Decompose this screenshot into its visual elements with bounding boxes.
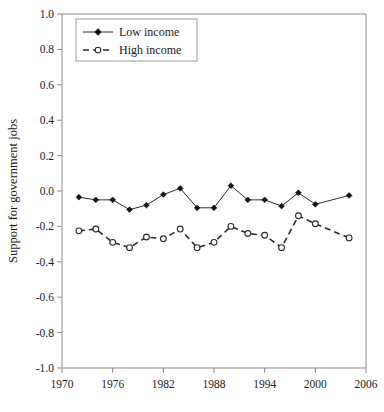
x-tick-label: 1976: [101, 378, 124, 390]
x-tick-label: 2006: [355, 378, 378, 390]
chart-background: [0, 0, 384, 412]
y-tick-label: -0.8: [36, 327, 54, 339]
y-tick-label: 0.4: [40, 114, 55, 126]
data-point-marker: [279, 245, 285, 251]
x-tick-label: 1970: [51, 378, 74, 390]
data-point-marker: [127, 245, 133, 251]
data-point-marker: [144, 234, 150, 240]
y-tick-label: -1.0: [36, 362, 54, 374]
x-tick-label: 2000: [304, 378, 327, 390]
data-point-marker: [93, 226, 99, 232]
chart-legend: Low income High income: [76, 19, 197, 61]
y-tick-label: 0.2: [40, 150, 55, 162]
y-tick-label: 0.6: [40, 79, 55, 91]
chart-figure: 1.00.80.60.40.20.0-0.2-0.4-0.6-0.8-1.0 1…: [0, 0, 384, 412]
data-point-marker: [110, 239, 116, 245]
legend-label-low-income: Low income: [119, 25, 179, 39]
data-point-marker: [312, 221, 318, 227]
data-point-marker: [245, 231, 251, 237]
data-point-marker: [194, 245, 200, 251]
data-point-marker: [160, 236, 166, 242]
data-point-marker: [211, 239, 217, 245]
y-tick-label: 0.0: [40, 185, 55, 197]
y-tick-label: -0.6: [36, 291, 54, 303]
y-tick-label: 0.8: [40, 43, 55, 55]
y-tick-label: -0.4: [36, 256, 54, 268]
x-tick-label: 1982: [152, 378, 175, 390]
data-point-marker: [346, 235, 352, 241]
x-tick-label: 1994: [253, 378, 276, 390]
y-tick-label: 1.0: [40, 8, 55, 20]
legend-marker-high-income: [95, 47, 101, 53]
data-point-marker: [228, 224, 234, 230]
legend-label-high-income: High income: [119, 43, 181, 57]
data-point-marker: [177, 226, 183, 232]
y-tick-label: -0.2: [36, 220, 54, 232]
data-point-marker: [296, 213, 302, 219]
x-tick-label: 1988: [203, 378, 226, 390]
y-axis-title: Support for government jobs: [6, 119, 20, 263]
data-point-marker: [262, 232, 268, 238]
line-chart: 1.00.80.60.40.20.0-0.2-0.4-0.6-0.8-1.0 1…: [0, 0, 384, 412]
data-point-marker: [76, 228, 82, 234]
